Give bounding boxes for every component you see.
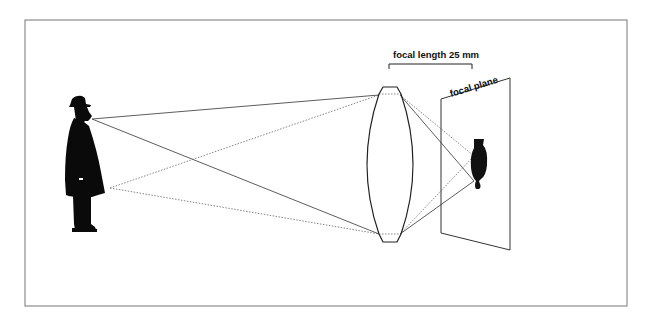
legs (73, 196, 96, 231)
ray-coat-to-lens-top (110, 95, 379, 188)
focal-plane-label: focal plane (448, 74, 499, 99)
focal-length-bracket (389, 64, 472, 69)
coat-pocket (79, 178, 83, 180)
ray-coat-to-lens-bottom (110, 188, 379, 234)
focal-length-label: focal length 25 mm (393, 49, 479, 60)
dotted-rays (110, 94, 474, 234)
solid-rays (92, 95, 474, 234)
coat (65, 118, 105, 197)
shoes (72, 228, 97, 232)
convex-lens (367, 87, 413, 242)
hat (69, 96, 91, 107)
diagram-frame (25, 20, 627, 306)
optics-diagram: focal length 25 mm focal plane (0, 0, 645, 323)
ray-head-to-lens-top (92, 95, 379, 119)
ray-head-to-lens-bottom (92, 119, 379, 234)
man-silhouette (65, 96, 105, 232)
